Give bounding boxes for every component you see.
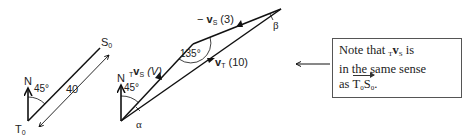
t0-label: T0: [15, 124, 26, 136]
beta-label: β: [273, 20, 279, 31]
angle-label-right: 45°: [124, 83, 139, 93]
vt-arrowhead: [207, 58, 215, 63]
neg-vs-label: − vS (3): [197, 14, 234, 26]
relative-velocity-figure: N 45° 40 T0 S0 N 45° α β 135° TvS (V) − …: [0, 0, 463, 136]
neg-vs-arrowhead: [236, 20, 243, 27]
note-box: Note that TvS is in the same sense as T0…: [332, 38, 462, 98]
t0s0-vector-overline: T0S0: [353, 77, 375, 96]
angle-arc-left: [28, 97, 45, 104]
angle-arc-right: [121, 96, 139, 103]
note-line-3: as T0S0.: [339, 77, 455, 96]
s0-label: S0: [101, 37, 112, 49]
vt-label: vT (10): [215, 57, 248, 69]
angle-label-left: 45°: [34, 84, 49, 94]
vertex-angle-label: 135°: [180, 49, 201, 59]
relative-velocity-label: TvS (V): [129, 66, 162, 78]
note-line-1: Note that TvS is: [339, 43, 455, 62]
alpha-label: α: [136, 119, 142, 130]
north-label-left: N: [24, 76, 32, 87]
distance-label: 40: [66, 84, 78, 95]
